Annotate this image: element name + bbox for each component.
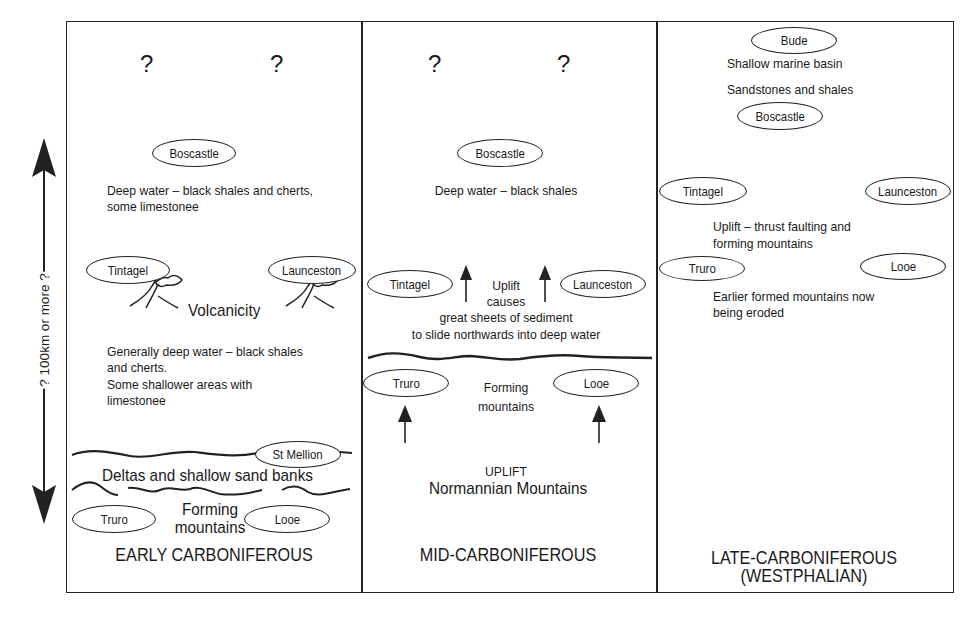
note-uplift: causes	[487, 293, 526, 310]
note-uplift: Uplift	[492, 277, 520, 294]
place-truro: Truro	[659, 256, 745, 281]
note-forming: Forming	[484, 379, 529, 396]
question-mark: ?	[557, 50, 570, 78]
place-boscastle: Boscastle	[152, 139, 236, 167]
note-eroded: being eroded	[713, 304, 784, 321]
place-truro: Truro	[363, 369, 449, 397]
up-arrow-icon	[398, 405, 412, 443]
place-tintagel: Tintagel	[86, 256, 170, 284]
place-boscastle: Boscastle	[737, 102, 823, 130]
question-mark: ?	[428, 50, 441, 78]
question-mark: ?	[270, 50, 283, 78]
note-general: and cherts.	[107, 359, 167, 376]
note-general: Generally deep water – black shales	[107, 343, 303, 360]
place-bude: Bude	[751, 27, 837, 54]
note-deep-water: some limestonee	[107, 198, 199, 215]
up-arrow-icon	[592, 405, 606, 443]
up-arrow-icon	[539, 265, 551, 302]
panel-title: MID-CARBONIFEROUS	[420, 545, 596, 565]
note-deep-water: Deep water – black shales and cherts,	[107, 182, 313, 199]
note-normannian: Normannian Mountains	[429, 479, 587, 499]
place-st-mellion: St Mellion	[255, 441, 341, 468]
note-general: limestonee	[107, 392, 166, 409]
place-launceston: Launceston	[865, 177, 951, 205]
place-launceston: Launceston	[560, 270, 646, 298]
wavy-line-icon	[72, 451, 262, 457]
note-uplift: great sheets of sediment	[439, 309, 572, 326]
place-boscastle: Boscastle	[457, 139, 543, 167]
note-uplift-caps: UPLIFT	[485, 463, 527, 480]
note-thrust: Uplift – thrust faulting and	[713, 218, 851, 235]
place-tintagel: Tintagel	[367, 270, 453, 298]
place-truro: Truro	[72, 505, 156, 533]
panel-title: LATE-CARBONIFEROUS	[711, 548, 897, 568]
question-mark: ?	[140, 50, 153, 78]
note-forming: mountains	[478, 398, 534, 415]
place-looe: Looe	[244, 505, 330, 533]
note-general: Some shallower areas with	[107, 376, 252, 393]
panel-subtitle: (WESTPHALIAN)	[741, 566, 868, 586]
note-volcanicity: Volcanicity	[188, 301, 260, 321]
note-forming: Forming	[182, 500, 238, 520]
scale-label: ? 100km or more ?	[37, 271, 52, 388]
note-deltas: Deltas and shallow sand banks	[102, 466, 313, 486]
place-tintagel: Tintagel	[659, 177, 747, 205]
up-arrow-icon	[460, 265, 472, 302]
note-shallow: Shallow marine basin	[727, 55, 842, 72]
note-sandstones: Sandstones and shales	[727, 81, 853, 98]
wavy-line-icon	[128, 488, 262, 495]
note-uplift: to slide northwards into deep water	[412, 326, 600, 343]
note-eroded: Earlier formed mountains now	[713, 288, 874, 305]
place-launceston: Launceston	[268, 256, 356, 284]
note-forming: mountains	[175, 518, 246, 538]
wavy-line-icon	[340, 452, 352, 453]
note-deep-water: Deep water – black shales	[435, 182, 578, 199]
panel-title: EARLY CARBONIFEROUS	[115, 545, 312, 565]
note-thrust: forming mountains	[713, 235, 813, 252]
wavy-line-icon	[368, 353, 652, 359]
place-looe: Looe	[860, 253, 946, 280]
place-looe: Looe	[553, 369, 639, 397]
wavy-line-icon	[282, 486, 350, 494]
